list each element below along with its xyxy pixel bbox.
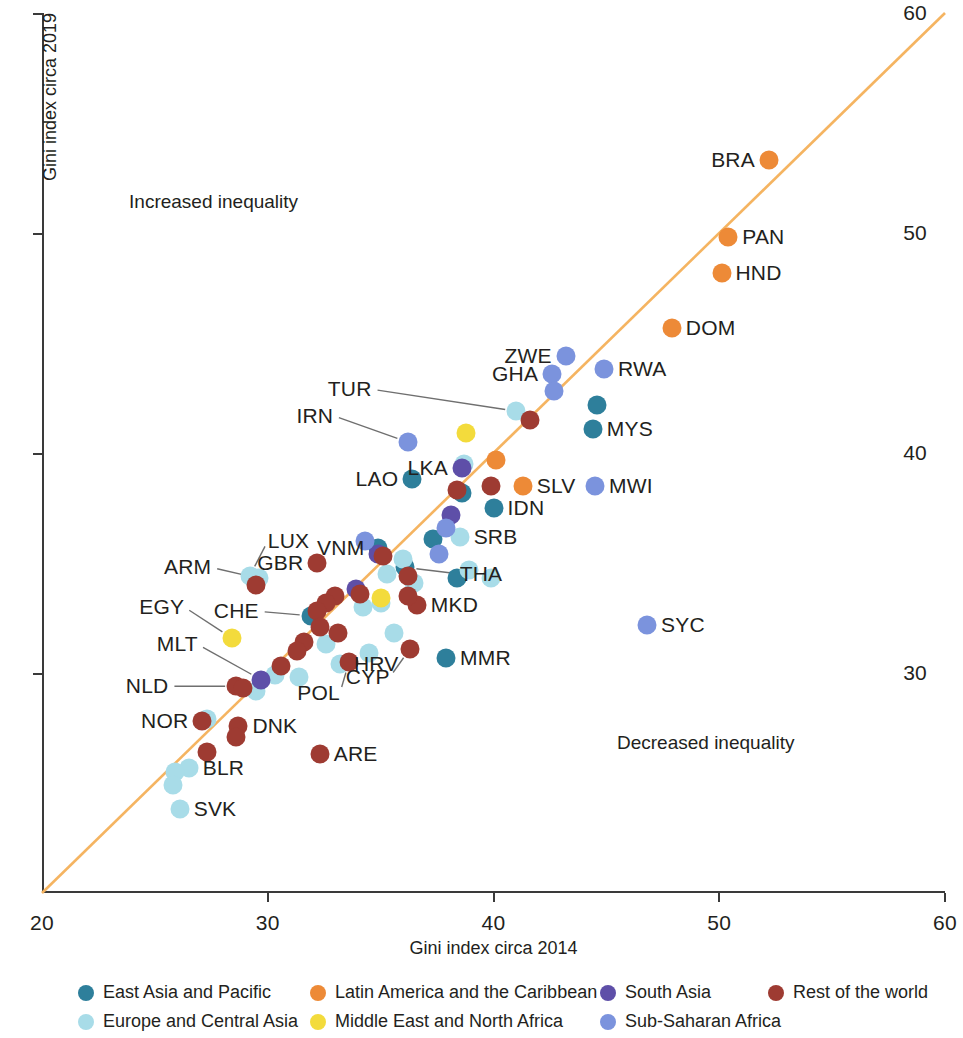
data-point[interactable] (486, 450, 505, 469)
point-label-MWI: MWI (609, 474, 653, 498)
data-point[interactable] (385, 624, 404, 643)
point-label-POL: POL (297, 681, 340, 705)
legend-label: South Asia (625, 982, 711, 1003)
data-point[interactable] (588, 395, 607, 414)
legend-item-sub-saharan-africa[interactable]: Sub-Saharan Africa (600, 1011, 768, 1032)
data-point[interactable] (233, 679, 252, 698)
point-label-DOM: DOM (686, 316, 736, 340)
data-point-CYP[interactable] (400, 639, 419, 658)
data-point-HND[interactable] (712, 263, 731, 282)
data-point[interactable] (328, 624, 347, 643)
legend-item-latin-america-and-the-caribbean[interactable]: Latin America and the Caribbean (310, 982, 600, 1003)
x-tick-label-20: 20 (30, 911, 54, 935)
legend-swatch-icon (310, 1014, 326, 1030)
point-label-GBR: GBR (257, 551, 303, 575)
x-tick-label-30: 30 (256, 911, 280, 935)
legend-item-rest-of-the-world[interactable]: Rest of the world (768, 982, 958, 1003)
data-point[interactable] (227, 727, 246, 746)
data-point[interactable] (371, 589, 390, 608)
y-tick-50 (33, 233, 42, 235)
data-point[interactable] (437, 518, 456, 537)
x-tick-50 (718, 893, 720, 902)
data-point-BRA[interactable] (759, 151, 778, 170)
data-point-ZWE[interactable] (556, 347, 575, 366)
data-point-MMR[interactable] (437, 648, 456, 667)
data-point[interactable] (310, 617, 329, 636)
data-point[interactable] (373, 547, 392, 566)
legend-label: Sub-Saharan Africa (625, 1011, 781, 1032)
legend-swatch-icon (600, 985, 616, 1001)
point-label-MMR: MMR (460, 646, 511, 670)
legend-label: East Asia and Pacific (103, 982, 271, 1003)
data-point[interactable] (378, 565, 397, 584)
y-tick-40 (33, 453, 42, 455)
x-tick-label-50: 50 (707, 911, 731, 935)
legend-swatch-icon (600, 1014, 616, 1030)
point-label-SLV: SLV (537, 474, 576, 498)
data-point-MWI[interactable] (586, 477, 605, 496)
point-label-BRA: BRA (711, 148, 755, 172)
point-label-LAO: LAO (356, 467, 399, 491)
data-point[interactable] (163, 776, 182, 795)
data-point-SYC[interactable] (638, 615, 657, 634)
data-point-EGY[interactable] (222, 628, 241, 647)
data-point-NOR[interactable] (193, 712, 212, 731)
data-point[interactable] (430, 545, 449, 564)
point-label-VNM: VNM (317, 536, 364, 560)
point-label-HND: HND (736, 261, 782, 285)
data-point-IDN[interactable] (484, 499, 503, 518)
legend-swatch-icon (78, 1014, 94, 1030)
point-label-CHE: CHE (214, 599, 259, 623)
data-point-SLV[interactable] (513, 477, 532, 496)
point-label-DNK: DNK (252, 714, 297, 738)
point-label-SVK: SVK (194, 797, 237, 821)
data-point-MLT[interactable] (251, 670, 270, 689)
data-point-RWA[interactable] (595, 360, 614, 379)
data-point-LKA[interactable] (452, 459, 471, 478)
data-point[interactable] (247, 576, 266, 595)
data-point-ARE[interactable] (310, 745, 329, 764)
point-label-ARE: ARE (334, 742, 378, 766)
x-tick-40 (493, 893, 495, 902)
legend-item-europe-and-central-asia[interactable]: Europe and Central Asia (78, 1011, 310, 1032)
point-label-NOR: NOR (141, 709, 188, 733)
point-label-CYP: CYP (346, 665, 390, 689)
data-point[interactable] (288, 642, 307, 661)
data-point[interactable] (351, 584, 370, 603)
point-label-ARM: ARM (164, 555, 211, 579)
data-point[interactable] (482, 477, 501, 496)
point-label-EGY: EGY (139, 595, 184, 619)
point-label-MYS: MYS (607, 417, 653, 441)
data-point[interactable] (545, 382, 564, 401)
point-label-GHA: GHA (492, 362, 538, 386)
legend-swatch-icon (310, 985, 326, 1001)
data-point-IRN[interactable] (398, 433, 417, 452)
legend-item-east-asia-and-pacific[interactable]: East Asia and Pacific (78, 982, 310, 1003)
legend-label: Middle East and North Africa (335, 1011, 563, 1032)
point-label-THA: THA (460, 562, 503, 586)
data-point[interactable] (457, 424, 476, 443)
legend-item-south-asia[interactable]: South Asia (600, 982, 768, 1003)
x-tick-label-60: 60 (933, 911, 957, 935)
plot-area: 30405060 2030405060 LAOMYSIDNTHAMMRVNMCH… (42, 13, 945, 893)
legend-label: Europe and Central Asia (103, 1011, 298, 1032)
data-point-MYS[interactable] (583, 419, 602, 438)
point-label-LKA: LKA (408, 456, 448, 480)
data-point[interactable] (448, 481, 467, 500)
scatter-chart-figure: 30405060 2030405060 LAOMYSIDNTHAMMRVNMCH… (0, 0, 963, 1038)
legend-item-middle-east-and-north-africa[interactable]: Middle East and North Africa (310, 1011, 600, 1032)
data-point[interactable] (520, 411, 539, 430)
x-tick-30 (267, 893, 269, 902)
data-point-PAN[interactable] (719, 228, 738, 247)
data-point[interactable] (398, 567, 417, 586)
point-label-MLT: MLT (157, 632, 198, 656)
data-point-DOM[interactable] (662, 318, 681, 337)
data-point[interactable] (398, 587, 417, 606)
chart-legend: East Asia and PacificLatin America and t… (78, 978, 958, 1036)
point-label-NLD: NLD (126, 674, 169, 698)
point-label-IRN: IRN (296, 404, 333, 428)
data-point[interactable] (272, 657, 291, 676)
point-label-TUR: TUR (328, 377, 372, 401)
data-point-SVK[interactable] (170, 800, 189, 819)
data-point[interactable] (394, 549, 413, 568)
